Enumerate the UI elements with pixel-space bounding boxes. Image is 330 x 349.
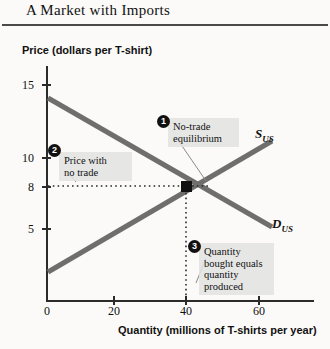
callout-2-box: Price with no trade <box>59 152 132 181</box>
callout-3-box: Quantity bought equals quantity produced <box>199 243 274 295</box>
callout-3-line-2: bought equals <box>204 258 270 270</box>
supply-curve-label-sub: US <box>262 134 274 144</box>
callout-3-line-4: produced <box>204 281 270 293</box>
supply-curve-label: SUS <box>255 126 274 144</box>
equilibrium-point-marker <box>181 181 192 192</box>
callout-3-line-3: quantity <box>204 269 270 281</box>
demand-curve-label-main: D <box>272 216 281 231</box>
callout-1-badge: 1 <box>157 115 170 128</box>
callout-1-line-2: equilibrium <box>173 133 235 145</box>
callout-1-box: No-trade equilibrium <box>168 118 239 147</box>
callout-2-line-2: no trade <box>64 167 128 179</box>
demand-curve-label: DUS <box>272 216 293 234</box>
callout-2-line-1: Price with <box>64 155 128 167</box>
demand-curve-label-sub: US <box>281 224 293 234</box>
callout-3-line-1: Quantity <box>204 246 270 258</box>
callout-2-badge: 2 <box>48 144 61 157</box>
curves-svg <box>0 0 330 349</box>
callout-1-line-1: No-trade <box>173 121 235 133</box>
chart-plot-area: Price (dollars per T-shirt) Quantity (mi… <box>0 0 330 349</box>
callout-3-badge: 3 <box>188 240 201 253</box>
